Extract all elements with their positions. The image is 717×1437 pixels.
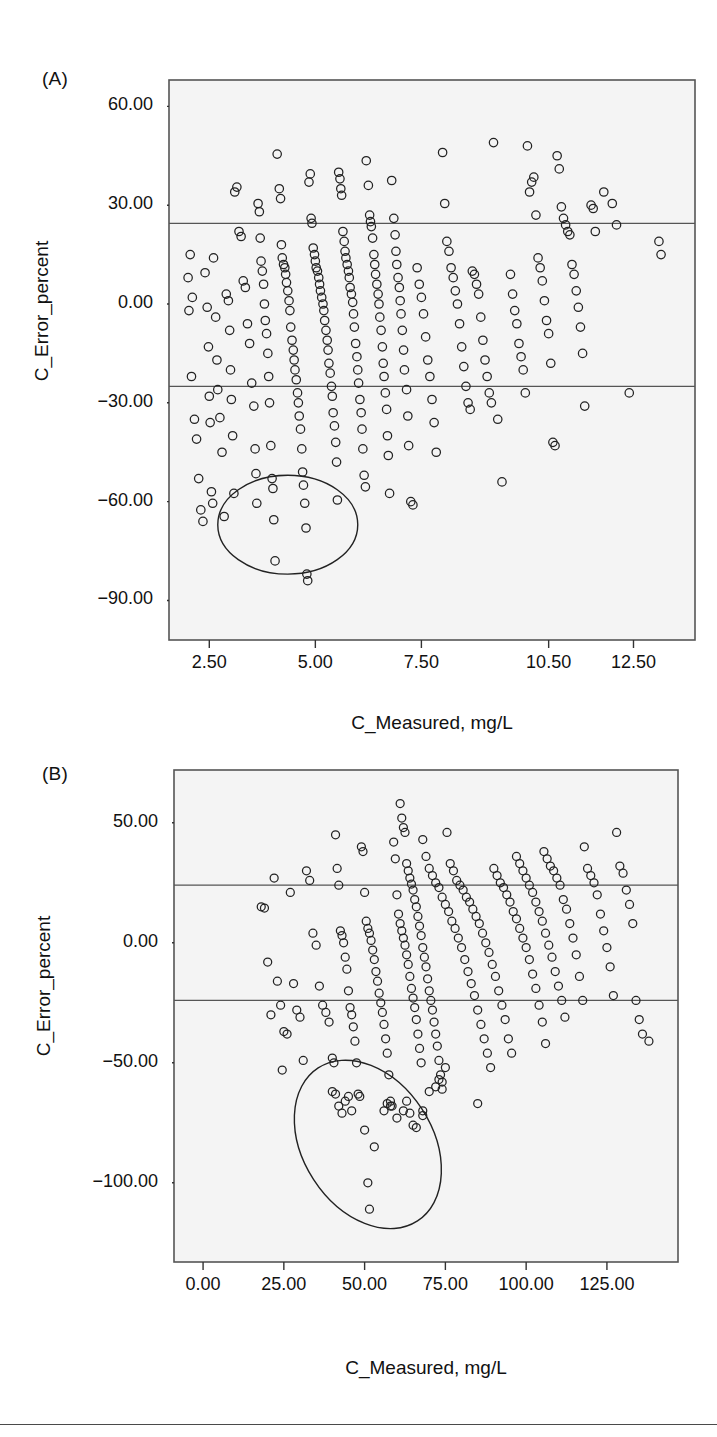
- x-tick-label: 10.50: [504, 652, 594, 673]
- panel-b: (B) C_Error_percent C_Measured, mg/L 0.0…: [0, 735, 717, 1385]
- x-tick-label: 7.50: [376, 652, 466, 673]
- y-tick-label: 0.00: [53, 292, 153, 313]
- y-tick-label: −90.00: [53, 588, 153, 609]
- panel-b-plot-area: [172, 760, 680, 1302]
- x-tick-label: 0.00: [158, 1274, 248, 1295]
- panel-a: (A) C_Error_percent C_Measured, mg/L 2.5…: [0, 40, 717, 740]
- y-tick-label: −60.00: [53, 490, 153, 511]
- x-tick-label: 100.00: [481, 1274, 571, 1295]
- panel-a-y-axis-title: C_Error_percent: [31, 221, 53, 401]
- footer-rule: [0, 1424, 717, 1425]
- panel-a-tag: (A): [42, 68, 68, 90]
- x-tick-label: 25.00: [239, 1274, 329, 1295]
- y-tick-label: −30.00: [53, 391, 153, 412]
- y-tick-label: 50.00: [58, 811, 158, 832]
- y-tick-label: −50.00: [58, 1051, 158, 1072]
- figure-container: (A) C_Error_percent C_Measured, mg/L 2.5…: [0, 0, 717, 1437]
- panel-a-x-axis-title: C_Measured, mg/L: [167, 712, 697, 734]
- x-tick-label: 5.00: [270, 652, 360, 673]
- x-tick-label: 2.50: [164, 652, 254, 673]
- y-tick-label: 60.00: [53, 94, 153, 115]
- x-tick-label: 125.00: [562, 1274, 652, 1295]
- panel-b-y-axis-title: C_Error_percent: [33, 896, 55, 1076]
- y-tick-label: 0.00: [58, 931, 158, 952]
- y-tick-label: −100.00: [58, 1171, 158, 1192]
- x-tick-label: 75.00: [400, 1274, 490, 1295]
- panel-a-plot-area: [167, 70, 697, 680]
- y-tick-label: 30.00: [53, 193, 153, 214]
- panel-b-tag: (B): [42, 763, 68, 785]
- x-tick-label: 50.00: [320, 1274, 410, 1295]
- panel-b-x-axis-title: C_Measured, mg/L: [172, 1357, 680, 1379]
- x-tick-label: 12.50: [588, 652, 678, 673]
